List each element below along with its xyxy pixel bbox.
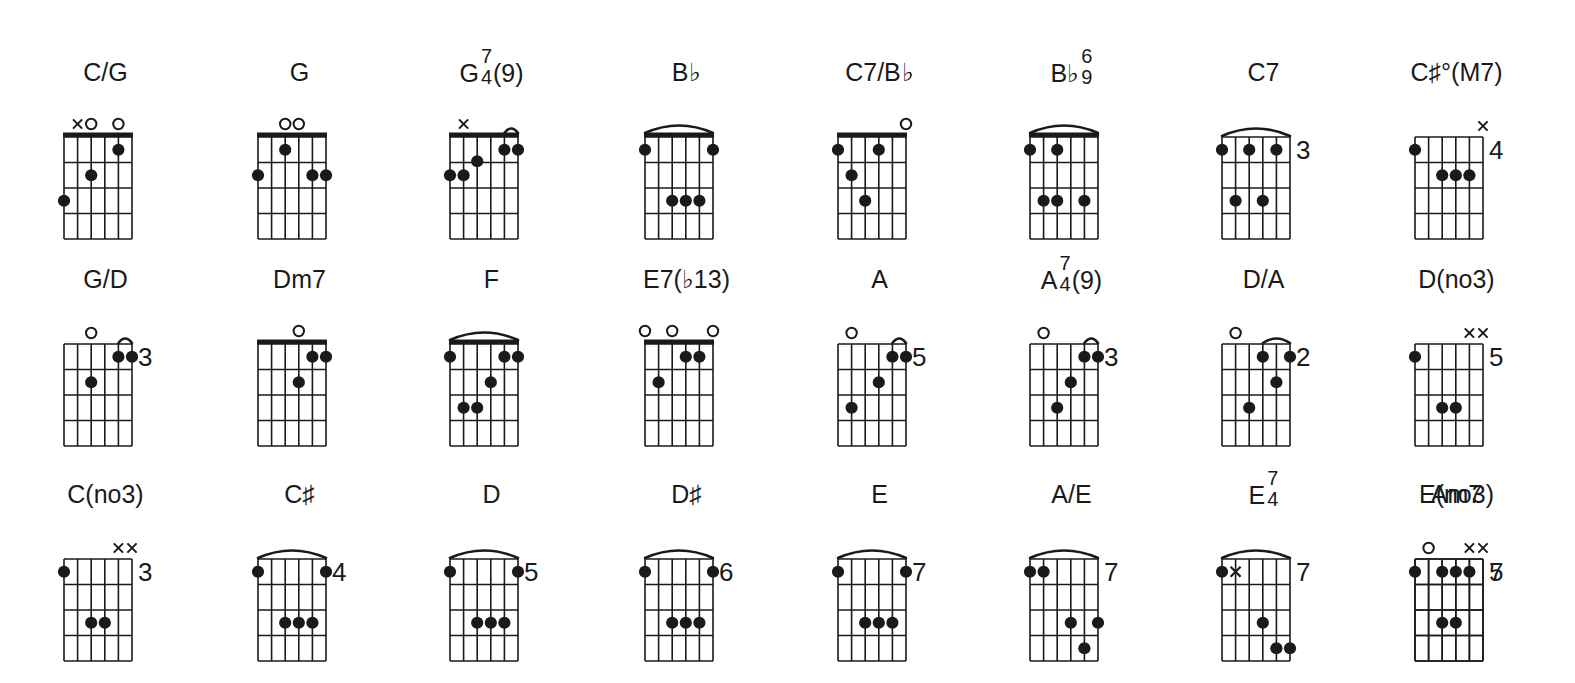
fret-position-label: 3 — [1296, 135, 1310, 165]
chord-diagram-dm7: Dm7 — [232, 262, 424, 477]
finger-dot — [1243, 402, 1255, 414]
chord-name-label: D(no3) — [1389, 262, 1524, 294]
fretboard — [1004, 103, 1196, 263]
finger-dot — [99, 617, 111, 629]
chord-grid — [424, 103, 580, 251]
fretboard: 6 — [619, 525, 811, 683]
chord-grid: 7 — [1004, 525, 1160, 673]
finger-dot — [1078, 351, 1090, 363]
fretboard — [812, 103, 1004, 263]
open-string-icon — [113, 119, 123, 129]
chord-diagram-e: E7 — [812, 477, 1004, 683]
chord-root: D — [482, 479, 500, 509]
chord-root: A/E — [1051, 479, 1091, 509]
muted-string-icon — [73, 119, 82, 128]
fretboard — [424, 310, 616, 470]
muted-string-icon — [1465, 328, 1474, 337]
chord-grid: 5 — [1389, 310, 1545, 458]
chord-root: D♯ — [671, 479, 702, 509]
fretboard: 7 — [1196, 525, 1388, 683]
chord-name-label: A/E — [1004, 477, 1139, 509]
finger-dot — [512, 351, 524, 363]
chord-root: C/G — [83, 57, 127, 87]
finger-dot — [707, 566, 719, 578]
fret-position-label: 7 — [1104, 557, 1118, 587]
finger-dot — [1284, 642, 1296, 654]
barre-arc — [258, 551, 326, 559]
finger-dot — [279, 144, 291, 156]
chord-diagram-d: D5 — [424, 477, 616, 683]
chord-root: E — [1249, 480, 1266, 510]
barre-arc — [645, 551, 713, 559]
chord-root: A — [1041, 265, 1058, 295]
chord-grid — [38, 103, 194, 251]
finger-dot — [471, 402, 483, 414]
finger-dot — [112, 351, 124, 363]
chord-diagram-b-flat: B♭ — [619, 55, 811, 270]
chord-diagram-c-over-g: C/G — [38, 55, 230, 270]
muted-string-icon — [1478, 121, 1487, 130]
fret-position-label: 3 — [1104, 342, 1118, 372]
finger-dot — [1024, 566, 1036, 578]
open-string-icon — [667, 326, 677, 336]
finger-dot — [485, 376, 497, 388]
chord-grid: 2 — [1196, 310, 1352, 458]
finger-dot — [1092, 351, 1104, 363]
finger-dot — [832, 566, 844, 578]
barre-arc — [1263, 339, 1290, 344]
chord-name-suffix: ♭ — [689, 57, 701, 87]
chord-grid: 3 — [1196, 103, 1352, 251]
finger-dot — [306, 351, 318, 363]
fretboard: 7 — [1004, 525, 1196, 683]
finger-dot — [900, 566, 912, 578]
fret-position-label: 5 — [1489, 342, 1503, 372]
barre-arc — [838, 551, 906, 559]
fretboard: 4 — [1389, 103, 1575, 263]
finger-dot — [1436, 169, 1448, 181]
chord-root: G — [290, 57, 309, 87]
finger-dot — [512, 144, 524, 156]
fretboard — [619, 103, 811, 263]
chord-extension-lower: 4 — [481, 68, 492, 86]
finger-dot — [126, 351, 138, 363]
chord-diagram-f: F — [424, 262, 616, 477]
chord-diagram-e-7-4: E747 — [1196, 477, 1388, 683]
chord-root: E7(♭13) — [643, 264, 730, 294]
muted-string-icon — [459, 119, 468, 128]
chord-root: E — [871, 479, 888, 509]
chord-root: G/D — [83, 264, 127, 294]
finger-dot — [900, 351, 912, 363]
fretboard — [232, 103, 424, 263]
chord-root: F — [484, 264, 499, 294]
fret-position-label: 4 — [332, 557, 346, 587]
fretboard: 3 — [38, 525, 230, 683]
fretboard: 5 — [812, 310, 1004, 470]
chord-extension-lower: 9 — [1081, 68, 1092, 86]
fretboard — [424, 103, 616, 263]
finger-dot — [85, 617, 97, 629]
finger-dot — [886, 351, 898, 363]
chord-name-label: C7/B♭ — [812, 55, 947, 87]
chord-diagram-d-sharp: D♯6 — [619, 477, 811, 683]
chord-name-label: C/G — [38, 55, 173, 87]
finger-dot — [1038, 195, 1050, 207]
fretboard — [619, 310, 811, 470]
finger-dot — [639, 144, 651, 156]
muted-string-icon — [127, 543, 136, 552]
open-string-icon — [708, 326, 718, 336]
chord-name-label: D — [424, 477, 559, 509]
muted-string-icon — [1465, 543, 1474, 552]
fret-position-label: 4 — [1489, 135, 1503, 165]
finger-dot — [1051, 195, 1063, 207]
chord-root: G — [459, 58, 478, 88]
chord-name-label: E(no3) — [1389, 477, 1524, 509]
finger-dot — [471, 617, 483, 629]
finger-dot — [1270, 642, 1282, 654]
open-string-icon — [640, 326, 650, 336]
chord-root: C7 — [1248, 57, 1280, 87]
open-string-icon — [846, 328, 856, 338]
finger-dot — [1038, 566, 1050, 578]
finger-dot — [859, 617, 871, 629]
finger-dot — [1024, 144, 1036, 156]
chord-name-label: E — [812, 477, 947, 509]
